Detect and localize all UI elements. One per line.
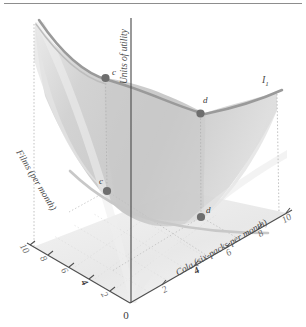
films-tick-label-8: 8 [38,254,49,263]
cola-tick-label-2: 2 [160,284,169,295]
origin-label: 0 [123,309,129,321]
point-label-c-upper: c [112,67,116,77]
dotted-edge-right [277,94,279,212]
figure-canvas: Units of utility Films (per month) Cola … [0,0,306,327]
curve-label-i1: I1 [261,74,269,88]
utility-surface-figure: Units of utility Films (per month) Cola … [0,0,306,327]
axis-label-utility: Units of utility [119,28,129,84]
films-tick-label-4: 4 [79,277,91,287]
curve-label-i1-subscript: 1 [265,80,269,88]
point-c-upper[interactable] [101,74,109,82]
point-label-c-base: c [99,176,103,186]
point-label-d-base: d [206,205,211,215]
cola-tick-label-4: 4 [191,265,201,277]
point-d-upper[interactable] [196,109,204,117]
point-c-base[interactable] [103,187,111,195]
point-label-d-upper: d [203,95,208,105]
films-tick-label-2: 2 [99,290,110,299]
point-d-base[interactable] [197,213,205,221]
films-tick-label-6: 6 [59,266,70,275]
axis-label-films: Films (per month) [13,147,59,213]
cola-tick-label-6: 6 [224,247,233,258]
